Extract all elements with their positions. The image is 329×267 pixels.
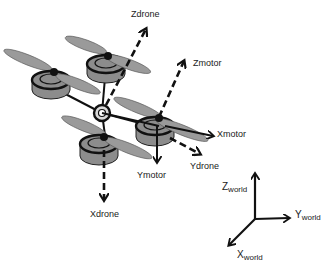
zdrone-label: Zdrone [131, 10, 160, 19]
xmotor-label: Xmotor [217, 130, 246, 139]
xdrone-label: Xdrone [90, 210, 119, 219]
xworld-label-main: X [237, 249, 244, 260]
ydrone-axis [170, 138, 200, 154]
yworld-label-sub: world [302, 213, 321, 222]
zmotor-label: Zmotor [193, 59, 222, 68]
xworld-label-sub: world [244, 253, 263, 262]
xworld-axis [229, 219, 255, 245]
yworld-label-main: Y [295, 209, 302, 220]
yworld-axis [255, 218, 289, 219]
quadcopter-frames-diagram: Zdrone Zmotor Xmotor Ydrone Ymotor Xdron… [0, 0, 329, 267]
zworld-label: Zworld [222, 182, 247, 194]
ymotor-label: Ymotor [137, 171, 166, 180]
yworld-label: Yworld [295, 210, 321, 222]
zmotor-axis [159, 61, 184, 117]
xworld-label: Xworld [237, 250, 263, 262]
ydrone-label: Ydrone [190, 162, 219, 171]
zworld-label-sub: world [228, 185, 247, 194]
diagram-graphics [0, 0, 329, 267]
